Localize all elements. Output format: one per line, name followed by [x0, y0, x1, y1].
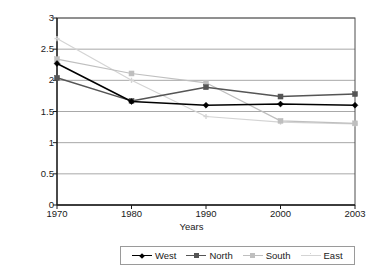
legend-item-west[interactable]: West	[132, 250, 176, 261]
legend-label: North	[209, 250, 232, 261]
data-point-marker	[278, 101, 284, 107]
chart-legend: WestNorthSouthEast	[120, 246, 355, 265]
legend-item-south[interactable]: South	[243, 250, 291, 261]
legend-label: East	[324, 250, 343, 261]
legend-item-north[interactable]: North	[186, 250, 232, 261]
data-point-marker	[203, 102, 209, 108]
legend-marker	[250, 253, 255, 258]
data-point-marker	[129, 71, 134, 76]
legend-label: West	[155, 250, 176, 261]
x-tick-label: 1970	[33, 208, 81, 219]
data-point-marker	[352, 102, 358, 108]
gridlines	[57, 18, 355, 205]
data-point-marker	[353, 92, 358, 97]
axes	[53, 18, 355, 209]
legend-item-east[interactable]: East	[301, 250, 343, 261]
x-axis-title: Years	[0, 221, 383, 232]
x-tick-label: 2003	[331, 208, 379, 219]
fertility-rates-line-chart: Total fertility rates 00.511.522.53 1970…	[0, 0, 383, 277]
legend-marker	[194, 253, 199, 258]
data-point-marker	[55, 75, 60, 80]
legend-swatch-diamond-icon	[132, 251, 152, 261]
x-tick-label: 1980	[108, 208, 156, 219]
data-point-marker	[204, 85, 209, 90]
data-point-marker	[278, 118, 283, 123]
legend-label: South	[266, 250, 291, 261]
x-tick-label: 1990	[182, 208, 230, 219]
data-point-marker	[278, 94, 283, 99]
legend-swatch-square-icon	[243, 251, 263, 261]
legend-line	[301, 255, 321, 256]
series-north	[55, 75, 358, 103]
x-tick-label: 2000	[257, 208, 305, 219]
legend-swatch-cross-icon	[301, 251, 321, 261]
legend-marker	[310, 253, 311, 254]
legend-swatch-square-icon	[186, 251, 206, 261]
legend-marker	[139, 253, 145, 259]
data-point-marker	[353, 121, 358, 126]
plot-area	[0, 0, 383, 277]
